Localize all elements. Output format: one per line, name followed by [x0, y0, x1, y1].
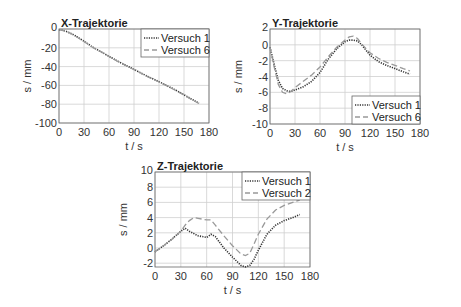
- y-tick-label: 6: [147, 196, 153, 208]
- x-tick-label: 0: [152, 270, 158, 282]
- x-tick-label: 120: [361, 127, 379, 139]
- y-tick-label: -10: [252, 118, 268, 130]
- y-tick-label: -2: [143, 257, 153, 269]
- series-versuch-1: [270, 40, 410, 91]
- y-tick-label: 0: [147, 242, 153, 254]
- legend-label: Versuch 1: [372, 99, 421, 111]
- y-tick-label: 2: [147, 227, 153, 239]
- chart-canvas: 03060901201501800-20-40-60-80-100X-Traje…: [0, 0, 461, 307]
- y-axis-label: s / mm: [21, 60, 33, 93]
- y-tick-label: -6: [258, 86, 268, 98]
- y-tick-label: -80: [41, 98, 57, 110]
- y-tick-label: 10: [141, 164, 153, 176]
- y-tick-label: -2: [258, 55, 268, 67]
- legend-label: Versuch 1: [161, 32, 210, 44]
- x-axis-label: t / s: [125, 140, 143, 152]
- x-tick-label: 30: [289, 127, 301, 139]
- y-tick-label: 2: [262, 21, 268, 33]
- legend-label: Versuch 6: [372, 111, 421, 123]
- x-tick-label: 180: [301, 270, 319, 282]
- x-tick-label: 150: [386, 127, 404, 139]
- x-tick-label: 120: [249, 270, 267, 282]
- x-tick-label: 90: [339, 127, 351, 139]
- legend: Versuch 1Versuch 6: [141, 29, 210, 57]
- y-tick-label: 8: [147, 181, 153, 193]
- x-tick-label: 90: [226, 270, 238, 282]
- legend-label: Versuch 1: [262, 175, 311, 187]
- x-axis-label: t / s: [336, 141, 354, 153]
- legend: Versuch 1Versuch 2: [242, 172, 311, 200]
- chart-x: 03060901201501800-20-40-60-80-100X-Traje…: [21, 17, 218, 152]
- y-tick-label: 0: [51, 21, 57, 33]
- x-tick-label: 150: [275, 270, 293, 282]
- legend-label: Versuch 2: [262, 187, 311, 199]
- y-axis-label: s / mm: [232, 60, 244, 93]
- y-tick-label: -40: [41, 61, 57, 73]
- y-tick-label: -20: [41, 42, 57, 54]
- chart-title: X-Trajektorie: [61, 17, 128, 29]
- x-tick-label: 30: [78, 126, 90, 138]
- legend-label: Versuch 6: [161, 44, 210, 56]
- y-tick-label: -8: [258, 102, 268, 114]
- x-tick-label: 150: [175, 126, 193, 138]
- x-tick-label: 120: [150, 126, 168, 138]
- x-axis-label: t / s: [224, 284, 242, 296]
- series-versuch-1: [155, 215, 300, 267]
- y-tick-label: 0: [262, 39, 268, 51]
- y-axis-label: s / mm: [117, 203, 129, 236]
- chart-z: 03060901201501801086420-2Z-Trajektoriet …: [117, 160, 319, 296]
- chart-y: 030609012015018020-2-4-6-8-10Y-Trajektor…: [232, 17, 429, 153]
- x-tick-label: 60: [201, 270, 213, 282]
- legend: Versuch 1Versuch 6: [352, 96, 421, 124]
- x-tick-label: 90: [128, 126, 140, 138]
- x-tick-label: 60: [314, 127, 326, 139]
- trajectory-figure: 03060901201501800-20-40-60-80-100X-Traje…: [0, 0, 461, 307]
- y-tick-label: -60: [41, 79, 57, 91]
- series-versuch-2: [155, 200, 300, 256]
- x-tick-label: 180: [411, 127, 429, 139]
- y-tick-label: -100: [35, 117, 57, 129]
- y-tick-label: 4: [147, 212, 153, 224]
- x-tick-label: 30: [175, 270, 187, 282]
- x-tick-label: 180: [200, 126, 218, 138]
- chart-title: Y-Trajektorie: [272, 17, 338, 29]
- chart-title: Z-Trajektorie: [157, 160, 223, 172]
- x-tick-label: 60: [103, 126, 115, 138]
- y-tick-label: -4: [258, 71, 268, 83]
